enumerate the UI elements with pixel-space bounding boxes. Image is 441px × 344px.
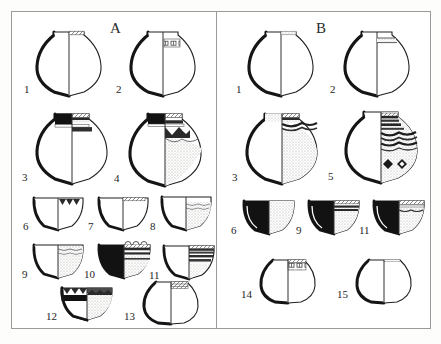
- vessel-number: 1: [24, 83, 30, 95]
- vessel-a4: 4: [120, 108, 212, 190]
- vessel-b14: 14: [256, 255, 318, 307]
- vessel-b2: 2: [336, 26, 418, 98]
- vessel-number: 10: [84, 268, 95, 280]
- vessel-number: 2: [116, 83, 122, 95]
- vessel-b11: 11: [370, 196, 428, 238]
- vessel-number: 6: [23, 220, 29, 232]
- vessel-number: 11: [359, 224, 370, 236]
- vessel-b5: 5: [336, 104, 428, 190]
- vessel-b1: 1: [240, 26, 322, 98]
- vessel-b6: 6: [240, 196, 298, 238]
- vessel-a8: 8: [158, 192, 216, 234]
- vessel-number: 13: [124, 310, 135, 322]
- vessel-a1: 1: [28, 26, 110, 98]
- vessel-number: 1: [236, 83, 242, 95]
- vessel-a12: 12: [58, 282, 116, 324]
- vessel-number: 4: [114, 172, 120, 184]
- vessel-number: 12: [46, 310, 57, 322]
- panel-label-a: A: [110, 20, 121, 37]
- vessel-number: 9: [22, 268, 28, 280]
- vessel-a9: 9: [30, 240, 88, 282]
- vessel-number: 3: [22, 171, 28, 183]
- vessel-number: 8: [150, 220, 156, 232]
- vessel-a3: 3: [28, 108, 116, 188]
- vessel-a10: 10: [95, 238, 155, 282]
- vessel-number: 7: [88, 220, 94, 232]
- vessel-b3: 3: [238, 108, 328, 188]
- vessel-a2: 2: [122, 26, 204, 98]
- vessel-number: 2: [330, 83, 336, 95]
- vessel-b9: 9: [305, 196, 363, 238]
- vessel-a13: 13: [140, 277, 202, 327]
- vessel-number: 14: [241, 288, 252, 300]
- vessel-number: 3: [232, 171, 238, 183]
- vessel-number: 15: [337, 288, 348, 300]
- vessel-b15: 15: [352, 255, 414, 307]
- vessel-number: 6: [231, 224, 237, 236]
- vessel-number: 5: [328, 170, 334, 182]
- vessel-number: 9: [296, 224, 302, 236]
- figure-plate: A B: [0, 0, 441, 344]
- vessel-a6: 6: [30, 194, 88, 234]
- vessel-a7: 7: [95, 194, 153, 234]
